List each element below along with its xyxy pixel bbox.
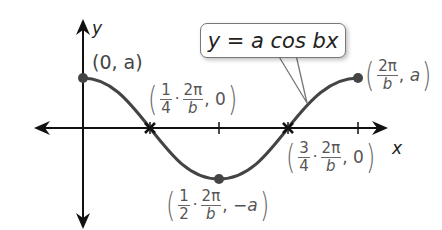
equation-callout: y = a cos bx: [200, 23, 346, 58]
point-minimum: [214, 174, 224, 184]
x-axis: [34, 121, 388, 135]
cosine-graph-diagram: y x y = a cos bx (0, a) ( 14 · 2πb , 0 )…: [0, 0, 442, 230]
label-second-zero: ( 34 · 2πb , 0 ): [284, 140, 377, 174]
label-end-maximum: ( 2πb , a ): [363, 58, 433, 92]
equation-text: y = a cos bx: [208, 29, 339, 53]
x-axis-label: x: [392, 138, 402, 158]
point-start-maximum: [78, 73, 88, 83]
callout-pointer: [278, 55, 307, 103]
label-minimum: ( 12 · 2πb , −a ): [164, 188, 271, 222]
y-axis-label: y: [92, 18, 102, 38]
label-start-maximum: (0, a): [92, 53, 143, 72]
y-axis: [76, 19, 90, 229]
label-first-zero: ( 14 · 2πb , 0 ): [146, 82, 239, 116]
point-end-maximum: [353, 73, 363, 83]
